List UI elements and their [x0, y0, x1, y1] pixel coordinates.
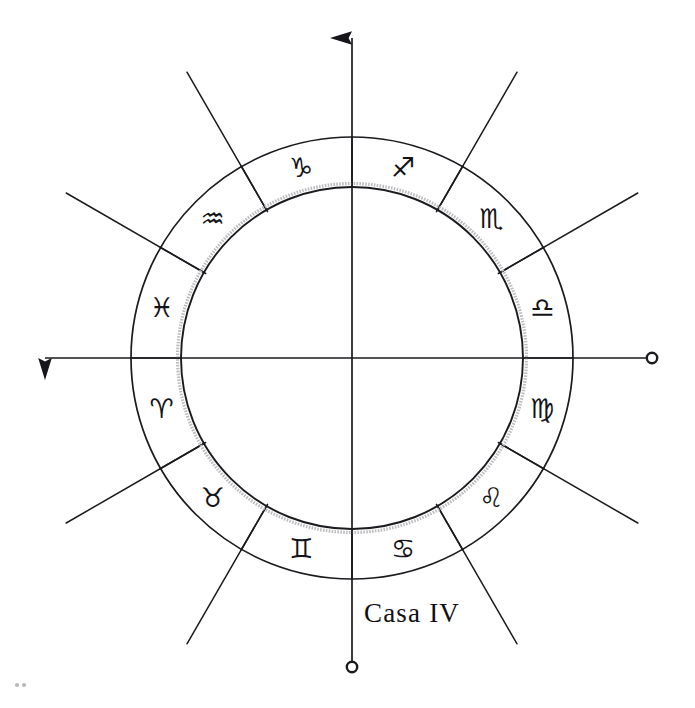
axis-lines-group [45, 38, 657, 672]
scan-artifact-dot-right [22, 683, 26, 687]
zodiac-glyph-scorpio: ♏ [479, 203, 503, 234]
sign-divider-line [437, 166, 463, 211]
descendant-axis-endpoint-circle [647, 353, 657, 363]
zodiac-glyph-virgo: ♍ [530, 393, 554, 424]
sign-divider-line [499, 443, 544, 469]
zodiac-glyph-taurus: ♉ [201, 482, 225, 513]
casa-iv-label: Casa IV [364, 598, 460, 628]
zodiac-glyph-sagittarius: ♐ [391, 152, 415, 183]
zodiac-glyph-libra: ♎ [530, 292, 554, 323]
sign-divider-line [160, 443, 205, 469]
zodiac-glyph-capricorn: ♑ [289, 152, 313, 183]
zodiac-glyph-leo: ♌ [479, 482, 503, 513]
sign-divider-line [241, 505, 267, 550]
zodiac-glyph-pisces: ♓ [150, 292, 174, 323]
wheel-svg: ♐♏♎♍♌♋♊♉♈♓♒♑ Casa IV [0, 0, 695, 708]
sign-divider-line [437, 505, 463, 550]
sign-divider-line [241, 166, 267, 211]
zodiac-glyph-gemini: ♊ [289, 533, 313, 564]
scan-artifact-dot-left [15, 683, 19, 687]
zodiac-glyph-aquarius: ♒ [201, 203, 225, 234]
sign-divider-line [160, 247, 205, 273]
zodiac-glyph-cancer: ♋ [391, 533, 415, 564]
imum-coeli-axis-endpoint-circle [347, 662, 357, 672]
sign-divider-line [499, 247, 544, 273]
zodiac-wheel-diagram: ♐♏♎♍♌♋♊♉♈♓♒♑ Casa IV [0, 0, 695, 708]
zodiac-glyph-aries: ♈ [150, 393, 174, 424]
